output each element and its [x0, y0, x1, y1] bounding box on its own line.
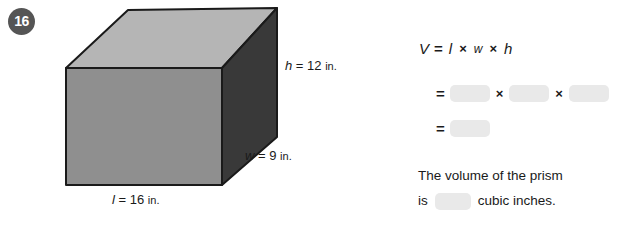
- substitution-multiply-sign-1: ×: [496, 86, 504, 101]
- formula-equals-sign: =: [434, 40, 443, 57]
- answer-sentence-line-1: The volume of the prism: [418, 163, 632, 188]
- answer-sentence-text-1: The volume of the prism: [418, 163, 563, 188]
- height-variable-formula: h: [504, 40, 512, 57]
- product-equals-sign: =: [436, 120, 445, 137]
- length-dimension-label: l = 16 in.: [112, 192, 159, 207]
- answer-sentence-line-2: is cubic inches.: [418, 188, 632, 213]
- height-value: 12: [307, 58, 321, 73]
- substitution-row: = × ×: [436, 85, 609, 102]
- volume-product-blank[interactable]: [450, 120, 490, 137]
- width-unit: in.: [280, 150, 292, 162]
- length-equals: =: [119, 192, 127, 207]
- width-equals: =: [258, 148, 266, 163]
- height-equals: =: [296, 58, 304, 73]
- length-variable: l: [112, 192, 115, 207]
- volume-answer-blank[interactable]: [435, 193, 471, 210]
- height-variable: h: [285, 58, 292, 73]
- work-area: V = l × w × h = × × = The volume of the …: [418, 0, 632, 232]
- length-variable-formula: l: [449, 40, 452, 57]
- answer-sentence-prefix: is: [418, 188, 428, 213]
- answer-sentence-suffix: cubic inches.: [478, 188, 556, 213]
- length-unit: in.: [148, 194, 160, 206]
- height-unit: in.: [325, 60, 337, 72]
- substitution-multiply-sign-2: ×: [555, 86, 563, 101]
- height-answer-blank[interactable]: [569, 85, 609, 102]
- volume-variable: V: [419, 40, 429, 57]
- width-dimension-label: w = 9 in.: [245, 148, 292, 163]
- rectangular-prism-drawing: [0, 0, 380, 232]
- length-answer-blank[interactable]: [450, 85, 490, 102]
- volume-formula-row: V = l × w × h: [418, 40, 513, 57]
- multiply-sign-1: ×: [459, 41, 467, 56]
- width-variable: w: [245, 148, 254, 163]
- product-row: =: [436, 120, 490, 137]
- prism-front-face: [66, 68, 222, 185]
- answer-sentence: The volume of the prism is cubic inches.: [418, 163, 632, 213]
- prism-figure: h = 12 in. w = 9 in. l = 16 in.: [0, 0, 380, 232]
- multiply-sign-2: ×: [489, 41, 497, 56]
- width-variable-formula: w: [474, 42, 483, 56]
- height-dimension-label: h = 12 in.: [285, 58, 337, 73]
- width-value: 9: [269, 148, 276, 163]
- substitution-equals-sign: =: [436, 85, 445, 102]
- length-value: 16: [130, 192, 144, 207]
- width-answer-blank[interactable]: [509, 85, 549, 102]
